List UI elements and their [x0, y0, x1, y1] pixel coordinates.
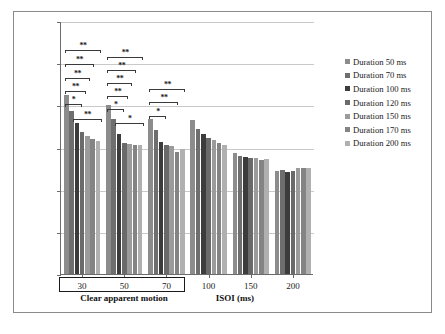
bracket-tick-right: [89, 78, 90, 81]
significance-stars: **: [107, 75, 132, 83]
bar: [306, 168, 311, 274]
bar: [264, 159, 269, 274]
bracket-tick-right: [93, 64, 94, 67]
bar: [106, 105, 111, 274]
bar: [233, 153, 238, 274]
bracket-tick-left: [65, 64, 66, 67]
significance-stars: *: [115, 115, 144, 123]
clear-apparent-motion-box: [59, 277, 185, 292]
bracket-line: [73, 119, 102, 120]
bracket-line: [107, 83, 132, 84]
legend-label: Duration 50 ms: [353, 57, 406, 67]
bar: [90, 139, 95, 274]
bracket-tick-left: [107, 70, 108, 73]
significance-stars: **: [65, 56, 94, 64]
bar: [296, 168, 301, 274]
bracket-line: [107, 70, 136, 71]
bracket-tick-right: [131, 83, 132, 86]
bar: [248, 158, 253, 274]
significance-stars: **: [149, 94, 178, 102]
bar: [259, 160, 264, 274]
bar-group: [145, 21, 187, 274]
legend-swatch-icon: [345, 59, 350, 64]
x-tick-mark: [293, 274, 294, 278]
bracket-line: [149, 89, 185, 90]
bar: [117, 134, 122, 274]
bracket-tick-right: [142, 57, 143, 60]
bracket-line: [149, 102, 178, 103]
legend-swatch-icon: [345, 127, 350, 132]
bracket-line: [107, 57, 143, 58]
bar: [201, 134, 206, 274]
significance-stars: *: [65, 96, 82, 104]
significance-bracket: **: [73, 115, 102, 127]
legend-label: Duration 200 ms: [353, 138, 411, 148]
bar: [64, 95, 69, 274]
bracket-tick-right: [123, 109, 124, 112]
significance-bracket: *: [115, 119, 144, 131]
bracket-tick-right: [85, 91, 86, 94]
bar: [212, 140, 217, 274]
bracket-line: [149, 116, 166, 117]
bar: [111, 119, 116, 274]
bar: [280, 170, 285, 274]
bar-group: [230, 21, 272, 274]
significance-stars: **: [65, 83, 86, 91]
legend-swatch-icon: [345, 100, 350, 105]
x-tick-mark: [209, 274, 210, 278]
bracket-tick-right: [143, 123, 144, 126]
bar: [222, 145, 227, 274]
bar: [169, 146, 174, 274]
bracket-line: [107, 96, 128, 97]
bar: [80, 132, 85, 274]
significance-stars: **: [149, 81, 185, 89]
bar: [217, 143, 222, 274]
bar: [206, 138, 211, 274]
bracket-tick-right: [81, 104, 82, 107]
bar: [285, 172, 290, 274]
bracket-tick-right: [127, 96, 128, 99]
bracket-line: [65, 78, 90, 79]
legend-item: Duration 170 ms: [345, 123, 431, 137]
bracket-tick-left: [65, 91, 66, 94]
bracket-tick-left: [149, 89, 150, 92]
x-tick-label: 150: [228, 281, 274, 291]
bar: [190, 120, 195, 274]
bracket-line: [65, 64, 94, 65]
significance-stars: **: [107, 88, 128, 96]
legend-label: Duration 150 ms: [353, 111, 411, 121]
bracket-tick-left: [65, 104, 66, 107]
bar: [148, 119, 153, 274]
bar: [122, 143, 127, 274]
plot-area: 020406080100120 305070100150200 ********…: [60, 22, 313, 275]
bar: [254, 158, 259, 274]
bar: [301, 168, 306, 274]
legend-label: Duration 70 ms: [353, 70, 406, 80]
bracket-line: [65, 91, 86, 92]
bracket-line: [65, 104, 82, 105]
legend-item: Duration 100 ms: [345, 82, 431, 96]
legend-swatch-icon: [345, 86, 350, 91]
significance-stars: **: [65, 70, 90, 78]
bar: [180, 149, 185, 274]
bracket-tick-left: [107, 57, 108, 60]
bracket-line: [65, 50, 101, 51]
legend-swatch-icon: [345, 73, 350, 78]
bracket-tick-right: [101, 119, 102, 122]
chart-figure: Perceived velocity (cm/s) 02040608010012…: [0, 0, 445, 334]
bar: [75, 123, 80, 274]
bracket-tick-left: [107, 96, 108, 99]
bar: [238, 156, 243, 274]
legend-label: Duration 170 ms: [353, 125, 411, 135]
significance-stars: **: [107, 62, 136, 70]
x-axis-label: ISOI (ms): [175, 293, 295, 303]
bracket-tick-left: [73, 119, 74, 122]
bar: [243, 157, 248, 274]
bracket-line: [115, 123, 144, 124]
chart-legend: Duration 50 msDuration 70 msDuration 100…: [345, 55, 431, 150]
bar: [291, 171, 296, 274]
bracket-tick-right: [165, 116, 166, 119]
legend-label: Duration 120 ms: [353, 98, 411, 108]
x-tick-label: 200: [270, 281, 316, 291]
legend-item: Duration 120 ms: [345, 96, 431, 110]
